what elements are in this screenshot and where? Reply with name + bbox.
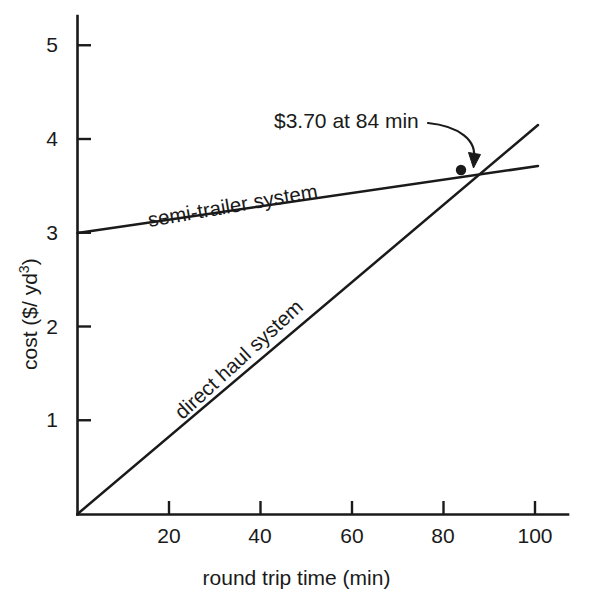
x-tick-label-20: 20 — [157, 524, 180, 548]
y-axis-title-close: ) — [18, 258, 41, 265]
y-tick-label-1: 1 — [30, 408, 58, 432]
annotation-label: $3.70 at 84 min — [274, 109, 419, 133]
y-tick-label-3: 3 — [30, 221, 58, 245]
x-tick-label-60: 60 — [340, 524, 363, 548]
x-tick-label-40: 40 — [248, 524, 271, 548]
x-axis-title: round trip time (min) — [0, 566, 593, 590]
annotation-arrow — [428, 123, 474, 160]
y-tick-label-4: 4 — [30, 127, 58, 151]
y-axis-title-base: cost ($/ yd — [18, 273, 41, 370]
x-tick-label-80: 80 — [431, 524, 454, 548]
chart-figure: 5 4 3 2 1 20 40 60 80 100 round trip tim… — [0, 0, 593, 601]
y-axis-title: cost ($/ yd3) — [18, 258, 42, 370]
intersection-marker — [456, 165, 466, 175]
y-tick-label-5: 5 — [30, 33, 58, 57]
x-tick-label-100: 100 — [517, 524, 552, 548]
annotation-arrowhead — [469, 153, 481, 169]
y-axis-title-exponent: 3 — [16, 265, 32, 273]
